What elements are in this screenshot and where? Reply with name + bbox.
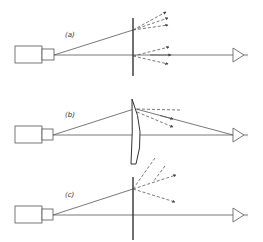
diffracted-ray (153, 166, 165, 182)
diffracted-ray (137, 109, 180, 110)
panel-label-c: (c) (65, 191, 75, 199)
eye-icon (233, 48, 248, 62)
diffracted-rays-lower (133, 47, 171, 64)
camera-icon (15, 46, 54, 63)
eye-icon (233, 128, 248, 142)
focused-ray (136, 109, 233, 135)
panel-a: (a) (15, 12, 248, 76)
panel-b: (b) (15, 99, 248, 182)
optical-diagram: (a) (b) (0, 0, 263, 242)
camera-icon (15, 126, 53, 143)
camera-icon (15, 206, 53, 223)
panel-label-b: (b) (65, 111, 75, 119)
panel-label-a: (a) (65, 31, 75, 39)
diffracted-rays-upper (133, 12, 168, 30)
panel-c: (c) (15, 158, 248, 240)
eye-icon (233, 208, 248, 222)
